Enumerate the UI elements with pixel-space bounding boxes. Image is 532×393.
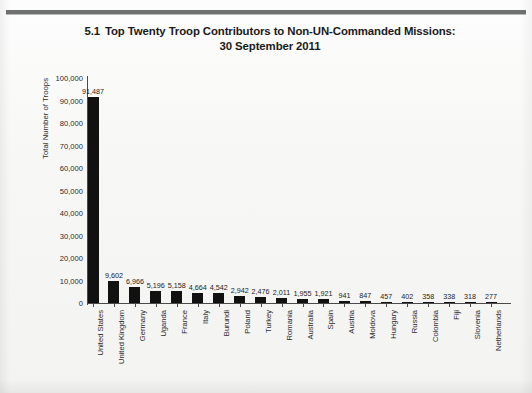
x-axis-category-label: Germany (138, 310, 147, 341)
x-axis-category-label: Hungary (389, 310, 398, 339)
x-axis-tick (449, 303, 450, 307)
bar-value-label: 4,664 (189, 283, 207, 292)
x-axis-category-label: Slovenia (473, 310, 482, 339)
bar-value-label: 2,476 (252, 287, 270, 296)
bar-value-label: 4,542 (210, 283, 228, 292)
x-axis-category-label: Austria (347, 310, 356, 334)
x-axis-tick (261, 303, 262, 307)
x-axis-category-label: Italy (201, 310, 210, 324)
x-axis-category-label: Fiji (452, 310, 461, 320)
bar-value-label: 338 (443, 292, 455, 301)
bar-value-label: 2,011 (273, 288, 290, 297)
bar (108, 281, 119, 303)
x-axis-tick (344, 303, 345, 307)
x-axis-tick (428, 303, 429, 307)
x-axis-tick (219, 303, 220, 307)
bar-value-label: 1,921 (314, 289, 332, 298)
x-axis-tick (135, 303, 136, 307)
x-axis-tick (114, 303, 115, 307)
x-axis-category-label: United States (96, 310, 105, 356)
x-axis-tick (93, 303, 94, 307)
x-axis-tick (240, 303, 241, 307)
bar-value-label: 5,158 (168, 281, 186, 290)
x-axis-category-label: Moldova (368, 310, 377, 339)
bar-value-label: 6,966 (126, 277, 144, 286)
x-axis-category-label: Poland (243, 310, 252, 334)
bar (171, 291, 182, 303)
bar (150, 291, 161, 303)
bar-value-label: 402 (401, 292, 413, 301)
document-page: 5.1Top Twenty Troop Contributors to Non-… (0, 0, 532, 393)
x-axis-tick (491, 303, 492, 307)
x-axis-category-label: Uganda (159, 310, 168, 337)
x-axis-tick (407, 303, 408, 307)
bar-value-label: 358 (422, 292, 434, 301)
x-axis-category-label: Netherlands (494, 310, 503, 351)
bar (213, 293, 224, 303)
bar-value-label: 5,196 (147, 281, 165, 290)
x-axis-category-label: United Kingdom (117, 310, 126, 364)
bar-value-label: 2,942 (231, 286, 249, 295)
x-axis-tick (303, 303, 304, 307)
x-axis-category-label: Spain (326, 310, 335, 329)
x-axis-category-label: Romania (285, 310, 294, 340)
x-axis-category-label: Colombia (431, 310, 440, 342)
x-axis-category-label: Australia (306, 310, 315, 340)
bar-value-label: 318 (464, 292, 476, 301)
bar-value-label: 847 (359, 291, 371, 300)
x-axis-tick (470, 303, 471, 307)
x-axis-tick (282, 303, 283, 307)
x-axis-tick (323, 303, 324, 307)
bar-value-label: 457 (380, 292, 392, 301)
bar-value-label: 1,955 (294, 289, 312, 298)
bar-value-label: 91,487 (82, 87, 104, 96)
bar (234, 296, 245, 303)
x-axis-category-labels: United StatesUnited KingdomGermanyUganda… (0, 0, 532, 393)
x-axis-category-label: Russia (410, 310, 419, 333)
x-axis-category-label: France (180, 310, 189, 334)
x-axis-tick (177, 303, 178, 307)
x-axis-tick (198, 303, 199, 307)
bar-chart: Total Number of Troops 100,00090,00080,0… (0, 0, 532, 393)
bar-value-label: 277 (485, 292, 497, 301)
x-axis-tick (156, 303, 157, 307)
bar (88, 97, 99, 303)
bar-value-label: 9,602 (105, 271, 123, 280)
x-axis-tick (365, 303, 366, 307)
x-axis-category-label: Burundi (222, 310, 231, 336)
bar (192, 293, 203, 303)
bar (129, 287, 140, 303)
x-axis-category-label: Turkey (264, 310, 273, 333)
x-axis-tick (386, 303, 387, 307)
bar-value-label: 941 (338, 291, 350, 300)
